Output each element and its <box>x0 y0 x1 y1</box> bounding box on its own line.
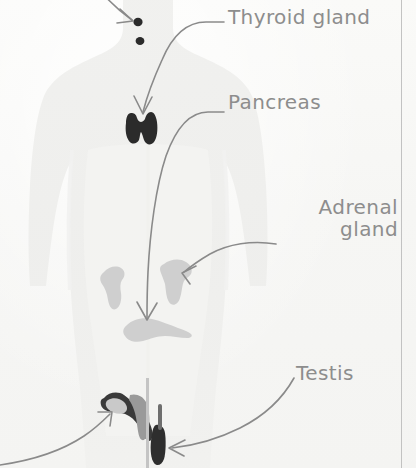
diagram-page: Thyroid gland Pancreas Adrenal gland Tes… <box>0 0 416 468</box>
arrow-thyroid-label-to-thyroid <box>134 22 224 114</box>
page-margin-rule <box>401 0 402 468</box>
arrow-to-pituitary-dot <box>103 0 133 23</box>
label-adrenal-line2: gland <box>340 217 398 241</box>
arrow-adrenal-label-to-adrenal <box>182 242 276 284</box>
arrow-testis-label-to-testis <box>169 378 294 456</box>
label-thyroid-gland: Thyroid gland <box>228 6 370 28</box>
label-testis: Testis <box>296 362 354 384</box>
arrow-from-bottom-left-to-ovary <box>0 412 112 466</box>
label-pancreas: Pancreas <box>228 91 321 113</box>
label-adrenal-gland: Adrenal gland <box>278 196 398 241</box>
arrow-pancreas-label-to-pancreas <box>137 112 224 320</box>
label-adrenal-line1: Adrenal <box>319 195 398 219</box>
